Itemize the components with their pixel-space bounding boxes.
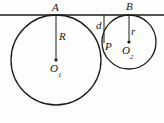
label-center-large: O1 xyxy=(50,63,61,77)
label-radius-large: R xyxy=(59,31,66,42)
label-center-small-letter: O xyxy=(122,44,130,56)
label-center-small-subscript: 2 xyxy=(130,53,134,61)
label-point-b: B xyxy=(126,1,133,12)
label-radius-small: r xyxy=(131,26,135,37)
label-center-small: O2 xyxy=(122,45,133,59)
label-center-large-subscript: 1 xyxy=(58,71,62,79)
label-distance-d: d xyxy=(96,20,102,31)
geometry-canvas xyxy=(0,0,164,123)
geometry-figure: A B R r d P O1 O2 xyxy=(0,0,164,123)
label-center-large-letter: O xyxy=(50,62,58,74)
label-point-a: A xyxy=(52,2,59,13)
label-point-p: P xyxy=(105,41,112,52)
